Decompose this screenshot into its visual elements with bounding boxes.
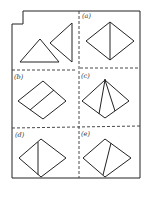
panel-d: (d) xyxy=(15,131,66,177)
panel-label-b: (b) xyxy=(14,73,24,81)
dividers xyxy=(12,11,140,178)
panel-a: (a) xyxy=(82,12,134,60)
panel-e: (e) xyxy=(81,130,131,177)
puzzle-figure: (a) (b) (c) (d) (e) xyxy=(0,0,151,201)
panel-b: (b) xyxy=(14,73,66,119)
apex-dot xyxy=(104,79,106,81)
panel-start xyxy=(20,23,72,62)
panel-label-a: (a) xyxy=(82,12,91,20)
panel-label-c: (c) xyxy=(81,72,90,80)
outer-frame xyxy=(12,11,140,178)
panel-label-d: (d) xyxy=(15,131,25,139)
panel-c: (c) xyxy=(81,72,129,118)
panel-label-e: (e) xyxy=(81,130,90,138)
